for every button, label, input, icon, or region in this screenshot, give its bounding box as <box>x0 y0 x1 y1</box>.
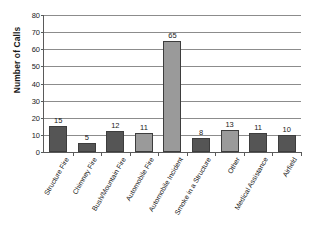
y-axis-title: Number of Calls <box>12 10 22 110</box>
bar[interactable] <box>249 133 267 152</box>
bar-value-label: 15 <box>54 116 62 125</box>
x-axis-category-label: Structure Fire <box>42 156 69 196</box>
x-axis-category-label: Airfield <box>281 156 298 178</box>
bar-value-label: 12 <box>111 121 119 130</box>
bar[interactable] <box>192 138 210 152</box>
x-axis-category-label: Medical Assistance <box>234 156 270 211</box>
bar-value-label: 13 <box>225 120 233 129</box>
x-axis-category-text: Airfield <box>281 156 298 178</box>
y-tick-label: 0 <box>36 148 40 157</box>
bar-value-label: 10 <box>283 125 291 134</box>
bar[interactable] <box>78 143 96 152</box>
x-axis-category-label: Other <box>226 156 241 175</box>
bar-value-label: 5 <box>85 133 89 142</box>
y-tick-mark <box>41 152 44 153</box>
x-axis-category-label: Chimney Fire <box>71 156 98 196</box>
bars-group: 1551211658131110 <box>44 15 301 152</box>
bar-value-label: 11 <box>140 123 148 132</box>
x-tick-mark <box>301 152 302 156</box>
y-tick-label: 40 <box>32 79 40 88</box>
y-tick-label: 20 <box>32 113 40 122</box>
bar[interactable] <box>106 131 124 152</box>
x-axis-category-text: Medical Assistance <box>234 156 270 211</box>
bar-slot: 15 <box>44 15 73 152</box>
bar-slot: 11 <box>130 15 159 152</box>
plot-area: 01020304050607080 1551211658131110 <box>43 15 301 153</box>
bar-slot: 8 <box>187 15 216 152</box>
x-axis-category-label: Bush/Mountain Fire <box>90 156 126 212</box>
y-tick-label: 30 <box>32 96 40 105</box>
bar[interactable] <box>135 133 153 152</box>
x-axis-labels: Structure FireChimney FireBush/Mountain … <box>43 156 300 235</box>
y-tick-label: 60 <box>32 45 40 54</box>
bar-chart: Number of Calls 01020304050607080 155121… <box>0 0 311 235</box>
x-axis-category-text: Other <box>226 156 241 175</box>
y-tick-label: 10 <box>32 130 40 139</box>
bar-slot: 10 <box>272 15 301 152</box>
x-axis-category-text: Automobile Fire <box>125 156 156 202</box>
bar-value-label: 11 <box>254 123 262 132</box>
x-axis-category-text: Bush/Mountain Fire <box>90 156 126 212</box>
x-axis-category-text: Structure Fire <box>42 156 69 196</box>
y-tick-label: 50 <box>32 62 40 71</box>
bar-value-label: 65 <box>168 31 176 40</box>
y-tick-label: 70 <box>32 28 40 37</box>
bar-slot: 13 <box>215 15 244 152</box>
bar[interactable] <box>163 41 181 152</box>
bar[interactable] <box>49 126 67 152</box>
bar-slot: 65 <box>158 15 187 152</box>
y-tick-label: 80 <box>32 11 40 20</box>
x-axis-category-text: Chimney Fire <box>71 156 98 196</box>
bar-slot: 5 <box>73 15 102 152</box>
bar-slot: 11 <box>244 15 273 152</box>
bar-slot: 12 <box>101 15 130 152</box>
bar[interactable] <box>221 130 239 152</box>
x-axis-category-label: Automobile Fire <box>125 156 156 202</box>
bar[interactable] <box>278 135 296 152</box>
bar-value-label: 8 <box>199 128 203 137</box>
